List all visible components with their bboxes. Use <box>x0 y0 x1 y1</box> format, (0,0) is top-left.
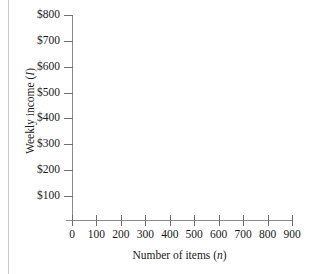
chart-figure: $800 $700 $600 $500 $400 $300 $200 $100 … <box>0 0 321 274</box>
x-axis-title: Number of items (n) <box>66 249 293 261</box>
y-axis-title: Weekly income (I) <box>24 21 36 201</box>
y-axis-tick <box>64 144 73 145</box>
y-axis-label-text: $300 <box>16 138 60 150</box>
y-axis-label-text: $700 <box>16 35 60 47</box>
y-axis-tick <box>64 67 73 68</box>
y-axis-tick <box>64 196 73 197</box>
y-axis-variable: I <box>24 72 36 76</box>
y-axis-label: $500 <box>14 87 60 99</box>
y-axis-title-text: Weekly income <box>24 82 36 154</box>
x-axis-tick <box>243 215 244 226</box>
y-axis-label-text: $800 <box>16 9 60 21</box>
x-axis-tick <box>194 215 195 226</box>
y-axis-label-text: $200 <box>16 164 60 176</box>
y-axis-label: $600 <box>14 61 60 73</box>
x-axis-tick <box>96 215 97 226</box>
x-axis-tick <box>268 215 269 226</box>
y-axis-label: $300 <box>14 138 60 150</box>
y-axis-label: $800 <box>14 9 60 21</box>
y-axis-tick <box>64 15 73 16</box>
y-axis-tick <box>64 170 73 171</box>
y-axis-label: $400 <box>14 112 60 124</box>
y-axis-label: $200 <box>14 164 60 176</box>
y-axis-tick <box>64 93 73 94</box>
y-axis-tick <box>64 41 73 42</box>
x-axis-title-text: Number of items <box>132 249 210 261</box>
y-axis-tick <box>64 118 73 119</box>
y-axis-label-text: $600 <box>16 61 60 73</box>
y-axis-label-text: $100 <box>16 190 60 202</box>
x-axis-tick <box>219 215 220 226</box>
x-axis-variable: n <box>217 249 223 261</box>
x-axis-tick <box>145 215 146 226</box>
y-axis-label: $100 <box>14 190 60 202</box>
x-axis-tick <box>72 215 73 226</box>
x-axis-tick <box>170 215 171 226</box>
y-axis-label-text: $400 <box>16 112 60 124</box>
x-axis-line <box>66 220 293 221</box>
x-axis-label: 900 <box>272 228 312 240</box>
plot-area <box>73 15 293 220</box>
y-axis-label: $700 <box>14 35 60 47</box>
y-axis-label-text: $500 <box>16 87 60 99</box>
x-axis-tick <box>121 215 122 226</box>
x-axis-tick <box>292 215 293 226</box>
